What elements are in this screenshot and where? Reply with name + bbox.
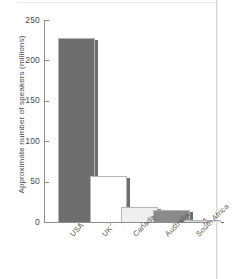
y-axis-tick-label: 200 (14, 55, 40, 65)
y-axis-line (44, 20, 45, 223)
scan-artifact-right-line-secondary (217, 0, 218, 279)
y-axis-tick (44, 20, 49, 21)
x-axis-label-usa: USA (68, 221, 86, 239)
x-axis-label-uk: UK (100, 224, 114, 238)
scan-artifact-top-line (18, 2, 218, 3)
y-axis-tick (44, 60, 49, 61)
y-axis-tick (44, 222, 49, 223)
y-axis-tick-label: 50 (14, 176, 40, 186)
y-axis-tick-label: 250 (14, 15, 40, 25)
y-axis-tick (44, 101, 49, 102)
y-axis-tick-label: 100 (14, 136, 40, 146)
bar-chart-figure: Approximate number of speakers (millions… (0, 0, 234, 279)
y-axis-tick (44, 182, 49, 183)
y-axis-tick (44, 141, 49, 142)
y-axis-tick-label: 150 (14, 95, 40, 105)
y-axis-tick-label: 0 (14, 217, 40, 227)
